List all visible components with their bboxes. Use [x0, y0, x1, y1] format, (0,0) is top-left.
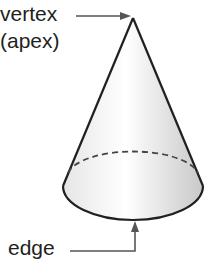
- cone-body: [63, 18, 203, 220]
- edge-arrow-line: [70, 229, 135, 251]
- vertex-arrow-head: [120, 12, 131, 20]
- apex-label: (apex): [0, 30, 60, 51]
- edge-label: edge: [8, 237, 55, 258]
- edge-arrow-head: [131, 221, 139, 232]
- cone-diagram: vertex (apex) edge: [0, 0, 207, 267]
- vertex-label: vertex: [0, 3, 57, 24]
